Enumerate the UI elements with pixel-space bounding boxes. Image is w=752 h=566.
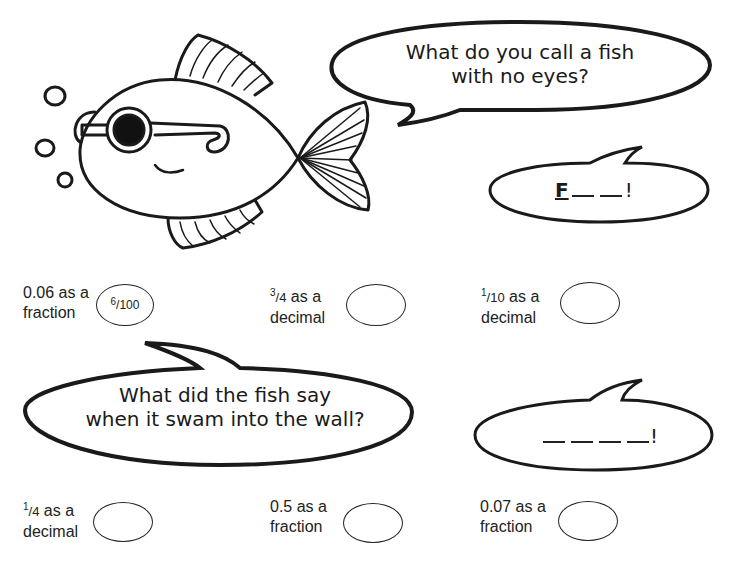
answer-2-exclamation: !	[650, 424, 658, 448]
problem-4-prompt: 1/4 as a decimal	[23, 497, 78, 542]
answer-numerator: 6	[111, 296, 117, 307]
prompt-type: decimal	[270, 308, 325, 328]
prompt-type: fraction	[270, 517, 327, 537]
question-2-line-1: What did the fish say	[60, 383, 390, 407]
question-2-text: What did the fish say when it swam into …	[60, 383, 390, 431]
question-1-line-2: with no eyes?	[395, 64, 645, 88]
answer-1-exclamation: !	[625, 178, 633, 202]
answer-blank[interactable]	[571, 440, 593, 443]
prompt-text: as a	[511, 498, 546, 515]
air-bubble-icon	[45, 87, 65, 105]
prompt-denominator: /4	[276, 290, 287, 305]
question-1-text: What do you call a fish with no eyes?	[395, 40, 645, 88]
answer-blank[interactable]	[599, 440, 621, 443]
prompt-number: 0.06	[23, 284, 54, 301]
prompt-text: as a	[54, 284, 89, 301]
answer-oval-2[interactable]	[346, 284, 406, 326]
answer-2-blanks[interactable]: !	[540, 424, 670, 448]
problem-6-prompt: 0.07 as a fraction	[480, 497, 546, 537]
problem-3-prompt: 1/10 as a decimal	[481, 283, 539, 328]
answer-1-blanks[interactable]: F!	[555, 178, 665, 202]
problem-2-prompt: 3/4 as a decimal	[270, 283, 325, 328]
answer-blank[interactable]	[572, 194, 594, 197]
question-1-line-1: What do you call a fish	[395, 40, 645, 64]
fish-illustration	[36, 35, 369, 248]
prompt-type: decimal	[23, 522, 78, 542]
air-bubble-icon	[36, 140, 54, 156]
answer-oval-6[interactable]	[558, 501, 618, 541]
answer-oval-5[interactable]	[343, 503, 403, 543]
prompt-text: as a	[505, 288, 540, 305]
answer-1-first-letter: F	[555, 178, 569, 202]
air-bubble-icon	[58, 173, 72, 187]
answer-oval-3[interactable]	[560, 282, 620, 324]
answer-blank[interactable]	[627, 440, 649, 443]
prompt-type: fraction	[480, 517, 546, 537]
prompt-text: as a	[286, 288, 321, 305]
question-2-line-2: when it swam into the wall?	[60, 407, 390, 431]
prompt-denominator: /10	[487, 290, 505, 305]
fish-eye-icon	[114, 115, 144, 145]
problem-1-prompt: 0.06 as a fraction	[23, 283, 89, 323]
answer-denominator: /100	[116, 298, 139, 312]
prompt-text: as a	[292, 498, 327, 515]
prompt-number: 0.07	[480, 498, 511, 515]
answer-oval-4[interactable]	[93, 502, 153, 542]
prompt-type: decimal	[481, 308, 539, 328]
answer-blank[interactable]	[600, 194, 622, 197]
problem-5-prompt: 0.5 as a fraction	[270, 497, 327, 537]
answer-blank[interactable]	[543, 440, 565, 443]
prompt-type: fraction	[23, 303, 89, 323]
fish-body	[80, 80, 298, 218]
prompt-text: as a	[39, 502, 74, 519]
prompt-number: 0.5	[270, 498, 292, 515]
answer-oval-1[interactable]: 6/100	[96, 284, 154, 326]
prompt-denominator: /4	[29, 504, 40, 519]
